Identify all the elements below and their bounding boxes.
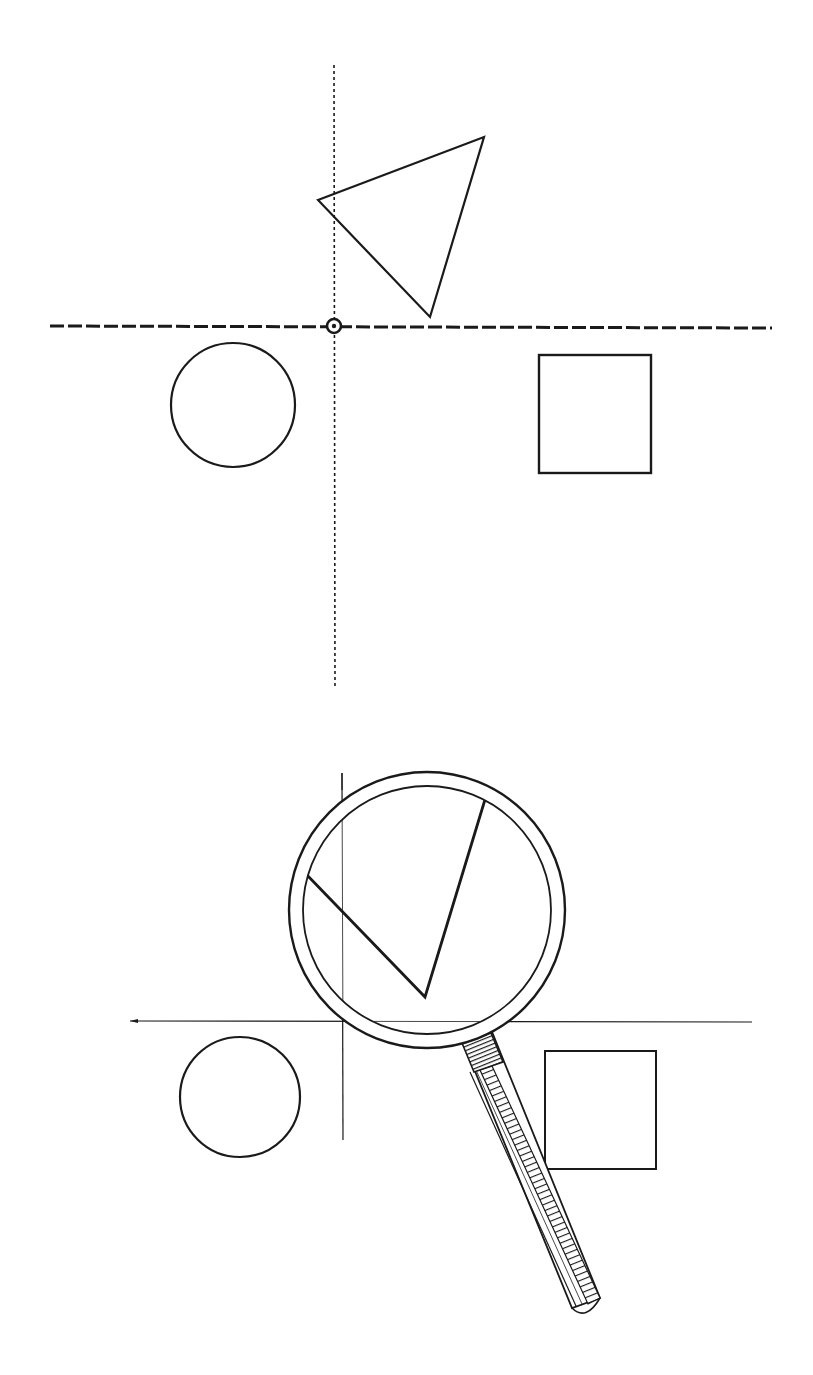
top-vertical-axis	[334, 65, 335, 688]
square-shape	[539, 355, 651, 473]
magnifier-handle	[463, 1032, 600, 1313]
circle-shape	[171, 343, 295, 467]
bottom-panel	[130, 772, 752, 1313]
top-horizontal-axis	[50, 326, 772, 328]
axis-arrow-left	[130, 1019, 138, 1023]
square-shape	[545, 1051, 656, 1169]
triangle-shape	[318, 137, 484, 317]
magnifying-glass-icon	[130, 772, 752, 1313]
origin-marker	[327, 319, 341, 333]
circle-shape	[180, 1037, 300, 1157]
top-panel	[50, 65, 772, 688]
diagram-canvas	[0, 0, 813, 1375]
